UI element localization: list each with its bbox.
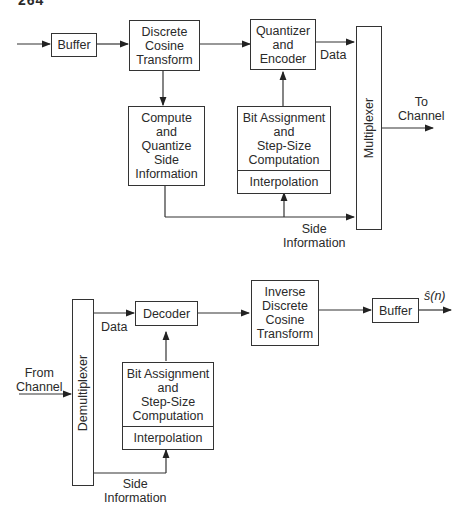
to-channel-line: To bbox=[398, 95, 445, 109]
encoder-data-label: Data bbox=[320, 48, 346, 62]
decoder-side-info-label: Side Information bbox=[104, 477, 167, 505]
decoder-interpolation-block: Interpolation bbox=[123, 426, 213, 449]
bit-assignment-line: Step-Size bbox=[127, 395, 210, 409]
dct-block: Discrete Cosine Transform bbox=[129, 20, 200, 71]
decoder-buffer-block: Buffer bbox=[372, 298, 419, 323]
decoder-label: Decoder bbox=[143, 307, 190, 321]
side-info-label-line: Information bbox=[283, 236, 346, 250]
decoder-buffer-label: Buffer bbox=[379, 304, 412, 318]
output-signal-label: ŝ(n) bbox=[424, 289, 446, 303]
to-channel-label: To Channel bbox=[398, 95, 445, 123]
quantizer-line: and bbox=[256, 38, 310, 52]
side-info-line: Compute bbox=[135, 111, 198, 125]
demultiplexer-block: Demultiplexer bbox=[72, 299, 94, 486]
idct-line: Discrete bbox=[257, 299, 314, 313]
idct-line: Cosine bbox=[257, 313, 314, 327]
encoder-buffer-block: Buffer bbox=[51, 33, 97, 57]
multiplexer-block: Multiplexer bbox=[356, 26, 382, 230]
demultiplexer-label: Demultiplexer bbox=[76, 354, 90, 430]
bit-assignment-line: Bit Assignment bbox=[243, 111, 326, 125]
side-info-compute-block: Compute and Quantize Side Information bbox=[128, 106, 205, 186]
encoder-interpolation-block: Interpolation bbox=[238, 170, 330, 193]
bit-assignment-line: Computation bbox=[127, 409, 210, 423]
quantizer-line: Quantizer bbox=[256, 24, 310, 38]
idct-line: Inverse bbox=[257, 285, 314, 299]
bit-assignment-line: Bit Assignment bbox=[127, 367, 210, 381]
encoder-bit-assignment-block: Bit Assignment and Step-Size Computation… bbox=[237, 106, 331, 194]
side-info-label-line: Side bbox=[104, 477, 167, 491]
dct-line: Discrete bbox=[136, 25, 193, 39]
quantizer-encoder-block: Quantizer and Encoder bbox=[250, 19, 316, 70]
bit-assignment-line: and bbox=[243, 125, 326, 139]
dct-line: Cosine bbox=[136, 39, 193, 53]
to-channel-line: Channel bbox=[398, 109, 445, 123]
multiplexer-label: Multiplexer bbox=[362, 98, 376, 158]
side-info-line: Quantize bbox=[135, 139, 198, 153]
from-channel-line: Channel bbox=[16, 380, 63, 394]
from-channel-line: From bbox=[16, 366, 63, 380]
side-info-line: Information bbox=[135, 167, 198, 181]
idct-block: Inverse Discrete Cosine Transform bbox=[251, 280, 319, 346]
decoder-block: Decoder bbox=[135, 301, 198, 326]
side-info-label-line: Information bbox=[104, 491, 167, 505]
side-info-line: and bbox=[135, 125, 198, 139]
encoder-side-info-label: Side Information bbox=[283, 222, 346, 250]
quantizer-line: Encoder bbox=[256, 52, 310, 66]
bit-assignment-line: Computation bbox=[243, 153, 326, 167]
bit-assignment-line: Step-Size bbox=[243, 139, 326, 153]
from-channel-label: From Channel bbox=[16, 366, 63, 394]
encoder-buffer-label: Buffer bbox=[57, 38, 90, 52]
idct-line: Transform bbox=[257, 327, 314, 341]
bit-assignment-line: and bbox=[127, 381, 210, 395]
dct-line: Transform bbox=[136, 53, 193, 67]
side-info-line: Side bbox=[135, 153, 198, 167]
decoder-data-label: Data bbox=[101, 320, 127, 334]
side-info-label-line: Side bbox=[283, 222, 346, 236]
decoder-bit-assignment-block: Bit Assignment and Step-Size Computation… bbox=[122, 362, 214, 450]
